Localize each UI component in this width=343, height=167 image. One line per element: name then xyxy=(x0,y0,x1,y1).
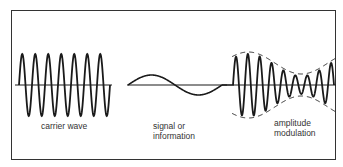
carrier-wave-label: carrier wave xyxy=(41,121,87,131)
signal-graphic xyxy=(127,75,227,95)
signal-label-line1: signal or xyxy=(153,121,185,131)
am-label-line2: modulation xyxy=(274,128,316,138)
am-label-line1: amplitude xyxy=(274,118,311,128)
am-graphic xyxy=(222,52,336,118)
signal-label-line2: information xyxy=(153,131,195,141)
carrier-wave-graphic xyxy=(15,54,112,116)
modulation-diagram xyxy=(0,0,343,167)
